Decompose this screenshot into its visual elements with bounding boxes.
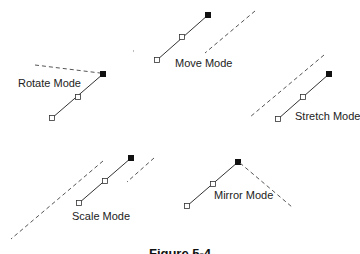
stretch-preview-line (250, 55, 324, 117)
mirror-mode-group: Mirror Mode (185, 160, 293, 209)
mirror-filled-handle-icon (236, 160, 241, 165)
stretch-mode-group: Stretch Mode (250, 55, 360, 122)
move-mode-label: Move Mode (175, 57, 232, 69)
scale-mode-group: Scale Mode (11, 156, 154, 240)
move-filled-handle-icon (206, 13, 211, 18)
rotate-preview-line (35, 65, 100, 73)
rotate-mode-label: Rotate Mode (18, 77, 81, 89)
rotate-mode-group: Rotate Mode (18, 65, 106, 121)
mirror-mode-label: Mirror Mode (214, 189, 273, 201)
scale-open-handle-icon (77, 201, 82, 206)
rotate-open-handle-icon (50, 116, 55, 121)
scale-mode-label: Scale Mode (72, 210, 130, 222)
scale-preview-line-long (11, 161, 103, 239)
figure-5-4: Move Mode Rotate Mode Stretch Mode (0, 0, 360, 254)
mirror-open-handle-icon (185, 204, 190, 209)
mirror-mid-handle-icon (211, 182, 216, 187)
move-open-handle-icon (155, 58, 160, 63)
rotate-filled-handle-icon (101, 72, 106, 77)
move-mid-handle-icon (180, 35, 185, 40)
figure-caption: Figure 5-4 (149, 246, 212, 254)
stretch-filled-handle-icon (327, 72, 332, 77)
stretch-mode-label: Stretch Mode (295, 110, 360, 122)
stretch-mid-handle-icon (301, 95, 306, 100)
rotate-mid-handle-icon (76, 95, 81, 100)
stray-dot (133, 50, 134, 52)
scale-mid-handle-icon (103, 179, 108, 184)
scale-preview-line-short (127, 158, 154, 182)
scale-filled-handle-icon (129, 156, 134, 161)
move-mode-group: Move Mode (155, 11, 256, 69)
move-preview-line (205, 11, 255, 53)
diagram-canvas: Move Mode Rotate Mode Stretch Mode (0, 0, 360, 254)
stretch-open-handle-icon (276, 117, 281, 122)
